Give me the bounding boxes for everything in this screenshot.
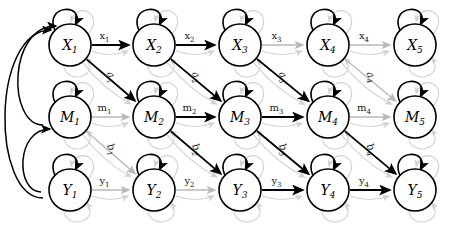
feedback-Y1-to-X1 (5, 30, 51, 198)
edge-label-a4: a4 (362, 70, 379, 85)
ghost-edge-x1 (92, 51, 128, 55)
node-M2[interactable]: M2 (133, 96, 175, 138)
node-X1[interactable]: X1 (49, 24, 91, 66)
edge-label-x2: x2 (184, 30, 194, 44)
node-X5[interactable]: X5 (394, 24, 436, 66)
ghost-edge-y1 (92, 196, 128, 200)
edge-label-b1: b1 (102, 142, 119, 158)
feedback-Y1-to-M1 (23, 129, 50, 192)
ghost-edge-m1 (92, 123, 128, 127)
node-Y5[interactable]: Y5 (394, 169, 436, 211)
node-M5[interactable]: M5 (394, 96, 436, 138)
node-Y4[interactable]: Y4 (307, 169, 349, 211)
node-M3[interactable]: M3 (219, 96, 261, 138)
node-M4[interactable]: M4 (307, 96, 349, 138)
ghost-edge-m4 (350, 123, 389, 127)
node-Y3[interactable]: Y3 (219, 169, 261, 211)
feedback-arcs-layer (5, 26, 56, 198)
edge-label-y1: y1 (98, 175, 109, 189)
ghost-edge-y4 (350, 196, 389, 200)
graph-diagram: X1X2X3X4X5M1M2M3M4M5Y1Y2Y3Y4Y5 x1x2x3x4m… (0, 0, 451, 229)
ghost-edge-y2 (176, 196, 214, 200)
ghost-edge-x2 (176, 51, 214, 55)
node-M1[interactable]: M1 (49, 96, 91, 138)
edge-label-m2: m2 (183, 102, 197, 116)
node-X2[interactable]: X2 (133, 24, 175, 66)
edge-label-b3: b3 (274, 142, 291, 158)
edge-label-x3: x3 (271, 30, 281, 44)
edge-label-m4: m4 (357, 102, 371, 116)
edge-label-a2: a2 (187, 70, 204, 86)
edge-label-b4: b4 (362, 142, 379, 158)
graph-canvas: X1X2X3X4X5M1M2M3M4M5Y1Y2Y3Y4Y5 x1x2x3x4m… (0, 0, 451, 229)
edge-label-y3: y3 (270, 175, 281, 189)
edge-label-m1: m1 (98, 102, 112, 116)
edge-label-y4: y4 (358, 175, 370, 189)
node-X4[interactable]: X4 (307, 24, 349, 66)
edge-label-x4: x4 (359, 30, 370, 44)
node-Y2[interactable]: Y2 (133, 169, 175, 211)
node-Y1[interactable]: Y1 (49, 169, 91, 211)
edge-label-b2: b2 (187, 142, 204, 158)
edge-label-y2: y2 (183, 175, 194, 189)
ghost-edge-y3 (262, 196, 302, 200)
ghost-edge-x4 (350, 51, 389, 55)
edge-label-m3: m3 (270, 102, 284, 116)
edge-label-x1: x1 (99, 30, 109, 44)
edge-label-a1: a1 (102, 70, 119, 85)
edge-label-a3: a3 (274, 70, 291, 86)
ghost-edge-m2 (176, 123, 214, 127)
ghost-edge-x3 (262, 51, 302, 55)
node-X3[interactable]: X3 (219, 24, 261, 66)
ghost-edge-m3 (262, 123, 302, 127)
